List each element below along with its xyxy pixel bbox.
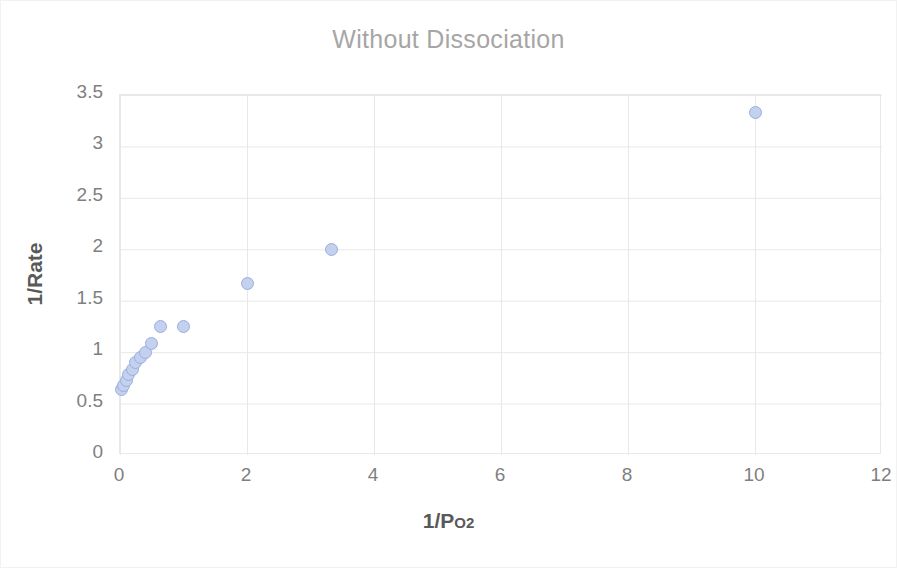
data-point — [145, 337, 158, 350]
chart-container: Without Dissociation 1/Rate 1/PO2 00.511… — [0, 0, 897, 568]
x-axis-tick-label: 6 — [495, 464, 506, 486]
data-point — [325, 243, 338, 256]
x-axis-title: 1/PO2 — [1, 509, 896, 533]
y-axis-tick-label: 2.5 — [1, 184, 103, 206]
x-axis-tick-label: 12 — [870, 464, 891, 486]
y-axis-tick-label: 3 — [1, 132, 103, 154]
plot-area — [119, 94, 881, 454]
data-point — [177, 320, 190, 333]
data-points-layer — [120, 95, 882, 455]
x-axis-title-main: 1/P — [423, 509, 455, 532]
x-axis-tick-label: 4 — [368, 464, 379, 486]
x-axis-tick-label: 8 — [622, 464, 633, 486]
x-axis-tick-label: 0 — [114, 464, 125, 486]
x-axis-tick-label: 10 — [743, 464, 764, 486]
y-axis-tick-label: 3.5 — [1, 81, 103, 103]
y-axis-tick-label: 0.5 — [1, 390, 103, 412]
x-axis-tick-label: 2 — [241, 464, 252, 486]
data-point — [241, 277, 254, 290]
y-axis-tick-label: 2 — [1, 235, 103, 257]
chart-title: Without Dissociation — [1, 25, 896, 54]
y-axis-tick-label: 1 — [1, 338, 103, 360]
data-point — [749, 106, 762, 119]
data-point — [154, 320, 167, 333]
x-axis-title-subscript: O2 — [454, 514, 474, 531]
y-axis-tick-label: 0 — [1, 441, 103, 463]
y-axis-tick-label: 1.5 — [1, 287, 103, 309]
